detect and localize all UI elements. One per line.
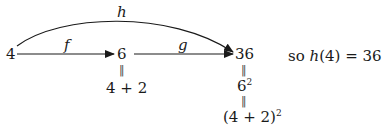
equals-vertical: ‖	[241, 95, 246, 107]
label-g: g	[178, 37, 188, 53]
equals-vertical: ‖	[119, 64, 124, 76]
expr-4-plus-2: 4 + 2	[106, 80, 147, 96]
conclusion-func: h	[310, 47, 320, 65]
expr-6-squared: 62	[237, 78, 252, 94]
node-input: 4	[6, 46, 16, 62]
node-middle: 6	[117, 46, 127, 62]
label-f: f	[64, 37, 70, 53]
expr-4-plus-2-squared: (4 + 2)2	[223, 109, 282, 125]
node-output: 36	[235, 46, 254, 62]
exponent: 2	[276, 108, 282, 118]
label-h: h	[117, 4, 127, 20]
conclusion-arg: (4) = 36	[319, 47, 381, 65]
base: 6	[237, 77, 247, 95]
conclusion-prefix: so	[288, 47, 305, 65]
base: (4 + 2)	[223, 108, 276, 126]
conclusion: so h(4) = 36	[288, 48, 382, 64]
exponent: 2	[247, 77, 253, 87]
equals-vertical: ‖	[241, 64, 246, 76]
